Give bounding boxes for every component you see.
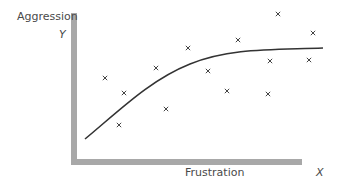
scatter-plot: [0, 0, 338, 186]
trend-curve: [85, 48, 323, 139]
data-points: [103, 12, 315, 127]
